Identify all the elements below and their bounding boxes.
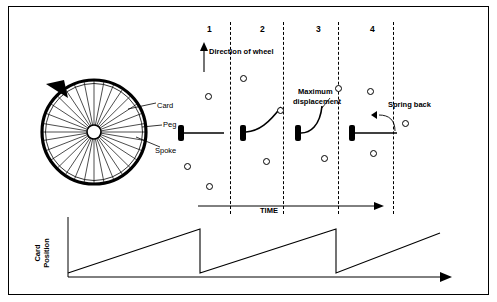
spoke-dot [205,93,212,100]
spoke-dot [184,163,191,170]
card-stage-1 [184,129,226,143]
label-peg: Peg [163,121,176,129]
spoke-dot [263,158,270,165]
label-card: Card [157,102,173,110]
figure-root: Card Peg Spoke 1 2 3 4 Direction of whee… [0,0,497,302]
y-axis-label-card-position: Card Position [33,223,51,283]
y-axis-label-line1: Card [33,244,42,261]
spoke-dot [206,183,213,190]
stage-number-2: 2 [260,24,265,34]
stage-number-4: 4 [370,24,375,34]
spoke-dot [370,150,377,157]
label-time: TIME [260,207,278,215]
stage-number-1: 1 [207,24,212,34]
stage-divider-3 [338,22,339,214]
spoke-dot [402,120,409,127]
label-spoke: Spoke [155,147,176,155]
label-direction-of-wheel: Direction of wheel [209,48,274,56]
label-maximum-displacement-line1: Maximum [298,88,333,96]
y-axis-label-line2: Position [42,238,51,268]
label-spring-back: Spring back [388,101,431,109]
max-displacement-leader [322,96,338,110]
time-axis [196,196,386,216]
stage-number-3: 3 [316,24,321,34]
spoke-dot [240,75,247,82]
spoke-dot [335,85,342,92]
spoke-dot [321,155,328,162]
spoke-dot [277,107,284,114]
spoke-dot [367,88,374,95]
card-position-chart [40,215,460,287]
